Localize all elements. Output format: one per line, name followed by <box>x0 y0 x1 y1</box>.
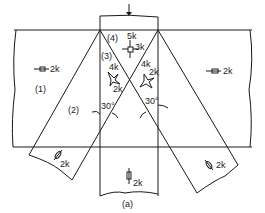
angle-arc-right-a <box>140 112 146 118</box>
region3-right-side-stress: 2k <box>149 67 159 77</box>
right-diag-outer <box>158 30 238 165</box>
angle-right-label: 30° <box>145 96 159 106</box>
band-right-break <box>249 30 252 147</box>
region1-label: (1) <box>35 84 46 94</box>
angle-arc-right-b <box>158 105 168 108</box>
region4-top-stress: 5k <box>127 31 137 41</box>
right-diag-inner <box>100 30 197 193</box>
column-top-edge <box>100 15 158 30</box>
stress-diagram: (4) 5k 3k (3) 4k 2k 4k 2k 2k 2k (1) (2) … <box>0 0 265 213</box>
left-diag-stress: 2k <box>60 159 70 169</box>
region4-label: (4) <box>107 33 118 43</box>
angle-arc-left-b <box>112 113 118 118</box>
left-band-stress: 2k <box>50 64 60 74</box>
band-left-break <box>12 30 16 147</box>
left-band-stress-icon <box>34 67 49 71</box>
column-stress: 2k <box>133 178 143 188</box>
right-diag-stress: 2k <box>216 160 226 170</box>
angle-left-label: 30° <box>101 101 115 111</box>
region3-label: (3) <box>101 51 112 61</box>
right-band-stress: 2k <box>223 66 233 76</box>
column-stress-icon <box>127 168 131 184</box>
angle-arc-left-a <box>92 111 100 114</box>
figure-caption: (a) <box>122 199 133 209</box>
column-bottom-break <box>100 192 158 196</box>
region3-left-top-stress: 4k <box>109 62 119 72</box>
region4-side-stress: 3k <box>135 42 145 52</box>
right-diag-stress-icon <box>205 160 213 170</box>
region2-label: (2) <box>68 105 79 115</box>
right-band-stress-icon <box>206 69 221 73</box>
region3-left-bottom-stress: 2k <box>113 84 123 94</box>
